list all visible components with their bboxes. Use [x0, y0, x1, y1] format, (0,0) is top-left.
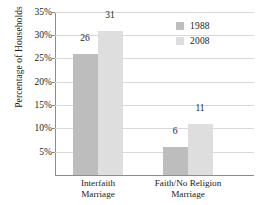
bar-value-interfaith-1988: 26 [80, 33, 90, 43]
x-category-label-faithno-line2: Marriage [155, 189, 222, 200]
x-axis-line [55, 175, 254, 176]
y-tick-label-15: 15% [0, 100, 52, 110]
legend-swatch-icon-2008 [176, 37, 184, 45]
bar-value-interfaith-2008: 31 [105, 10, 115, 20]
x-category-label-faithno: Faith/No Religion Marriage [155, 178, 222, 200]
bar-faithno-2008[interactable] [188, 124, 213, 175]
x-category-label-interfaith-line2: Marriage [81, 189, 115, 200]
bar-value-faithno-1988: 6 [173, 126, 178, 136]
y-tick-label-25: 25% [0, 53, 52, 63]
y-tick-label-30: 30% [0, 30, 52, 40]
bar-interfaith-1988[interactable] [73, 54, 98, 175]
bar-faithno-1988[interactable] [163, 147, 188, 175]
y-tick-label-35: 35% [0, 7, 52, 17]
legend: 1988 2008 [176, 18, 210, 48]
legend-label-1988: 1988 [190, 21, 210, 31]
y-tick-label-5: 5% [0, 147, 52, 157]
legend-swatch-icon-1988 [176, 22, 184, 30]
x-category-label-faithno-line1: Faith/No Religion [155, 178, 222, 189]
bar-value-faithno-2008: 11 [195, 103, 204, 113]
legend-label-2008: 2008 [190, 36, 210, 46]
bar-chart: Percentage of Households 35% 30% 25% 20%… [0, 0, 258, 205]
x-category-label-interfaith: Interfaith Marriage [81, 178, 115, 200]
x-category-label-interfaith-line1: Interfaith [81, 178, 115, 189]
y-tick-label-20: 20% [0, 77, 52, 87]
gridline-35 [55, 12, 254, 13]
bar-interfaith-2008[interactable] [98, 31, 123, 175]
y-axis-tick-labels: 35% 30% 25% 20% 15% 10% 5% [0, 0, 52, 205]
legend-item-2008[interactable]: 2008 [176, 33, 210, 48]
y-tick-label-10: 10% [0, 123, 52, 133]
legend-item-1988[interactable]: 1988 [176, 18, 210, 33]
